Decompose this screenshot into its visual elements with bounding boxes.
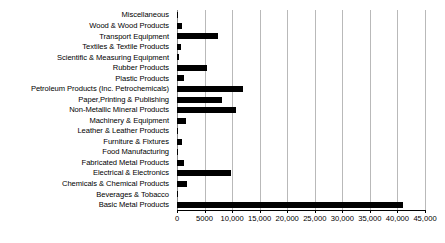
- x-tick-label: 45,000: [413, 215, 436, 223]
- category-label: Plastic Products: [0, 73, 173, 84]
- x-tick: [315, 210, 316, 213]
- bar: [177, 33, 218, 39]
- x-tick: [287, 210, 288, 213]
- bar-row: [177, 157, 425, 168]
- plot-area: [177, 10, 425, 210]
- bar-row: [177, 200, 425, 211]
- category-label: Non-Metallic Mineral Products: [0, 105, 173, 116]
- bar-series: [177, 10, 425, 210]
- bar: [177, 170, 231, 176]
- category-label: Miscellaneous: [0, 10, 173, 21]
- category-label: Transport Equipment: [0, 31, 173, 42]
- bar: [177, 128, 178, 134]
- gridline: [425, 10, 426, 210]
- bar-row: [177, 10, 425, 21]
- bar-row: [177, 73, 425, 84]
- bar-row: [177, 63, 425, 74]
- bar-row: [177, 168, 425, 179]
- bar: [177, 86, 243, 92]
- category-label: Beverages & Tobacco: [0, 189, 173, 200]
- category-label: Food Manufacturing: [0, 147, 173, 158]
- bar-row: [177, 31, 425, 42]
- bar: [177, 181, 187, 187]
- x-tick-label: 10,000: [220, 215, 243, 223]
- x-tick: [425, 210, 426, 213]
- category-axis-labels: MiscellaneousWood & Wood ProductsTranspo…: [0, 10, 173, 210]
- x-tick: [370, 210, 371, 213]
- x-tick: [397, 210, 398, 213]
- bar: [177, 97, 222, 103]
- bar-row: [177, 126, 425, 137]
- x-tick-label: 20,000: [276, 215, 299, 223]
- x-tick: [232, 210, 233, 213]
- bar: [177, 191, 178, 197]
- category-label: Paper,Printing & Publishing: [0, 94, 173, 105]
- x-tick-label: 5000: [196, 215, 213, 223]
- bar: [177, 23, 182, 29]
- bar: [177, 75, 184, 81]
- bar-chart: MiscellaneousWood & Wood ProductsTranspo…: [0, 0, 445, 243]
- bar: [177, 149, 178, 155]
- category-label: Leather & Leather Products: [0, 126, 173, 137]
- category-label: Wood & Wood Products: [0, 21, 173, 32]
- bar: [177, 160, 184, 166]
- x-tick-label: 15,000: [248, 215, 271, 223]
- x-tick: [205, 210, 206, 213]
- bar-row: [177, 136, 425, 147]
- x-tick-label: 40,000: [386, 215, 409, 223]
- x-tick: [177, 210, 178, 213]
- bar: [177, 65, 207, 71]
- x-tick-label: 35,000: [358, 215, 381, 223]
- category-label: Textiles & Textile Products: [0, 42, 173, 53]
- category-label: Rubber Products: [0, 63, 173, 74]
- x-tick-label: 25,000: [303, 215, 326, 223]
- bar: [177, 44, 181, 50]
- x-tick-label: 30,000: [331, 215, 354, 223]
- bar: [177, 118, 186, 124]
- x-tick: [260, 210, 261, 213]
- bar-row: [177, 84, 425, 95]
- category-label: Petroleum Products (Inc. Petrochemicals): [0, 84, 173, 95]
- category-label: Chemicals & Chemical Products: [0, 179, 173, 190]
- bar-row: [177, 189, 425, 200]
- x-tick: [342, 210, 343, 213]
- x-axis-tick-labels: 0500010,00015,00020,00025,00030,00035,00…: [0, 215, 445, 229]
- bar-row: [177, 52, 425, 63]
- category-label: Fabricated Metal Products: [0, 157, 173, 168]
- bar-row: [177, 94, 425, 105]
- bar-row: [177, 21, 425, 32]
- x-tick-label: 0: [175, 215, 179, 223]
- bar-row: [177, 179, 425, 190]
- bar-row: [177, 105, 425, 116]
- bar-row: [177, 115, 425, 126]
- category-label: Electrical & Electronics: [0, 168, 173, 179]
- bar: [177, 107, 236, 113]
- bar-row: [177, 42, 425, 53]
- bar-row: [177, 147, 425, 158]
- bar: [177, 202, 403, 208]
- bar: [177, 139, 182, 145]
- bar: [177, 12, 178, 18]
- category-label: Machinery & Equipment: [0, 115, 173, 126]
- category-label: Scientific & Measuring Equipment: [0, 52, 173, 63]
- category-label: Basic Metal Products: [0, 200, 173, 211]
- category-label: Furniture & Fixtures: [0, 136, 173, 147]
- bar: [177, 54, 179, 60]
